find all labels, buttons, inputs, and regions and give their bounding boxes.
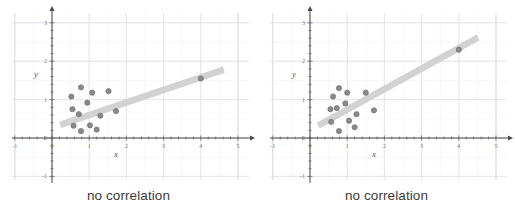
x-tick-label: 3: [162, 143, 165, 149]
y-tick-label: 3: [302, 20, 305, 26]
data-point: [352, 125, 357, 130]
major-grid: [12, 13, 249, 180]
trend-line: [318, 37, 478, 125]
data-point: [113, 109, 118, 114]
x-tick-label: -1: [12, 143, 17, 149]
data-point: [69, 94, 74, 99]
figure-container: -10123453210-1xy no correlation -1012345…: [0, 0, 515, 220]
axes: [270, 6, 513, 183]
data-point: [330, 94, 335, 99]
y-tick-label: 0: [44, 135, 47, 141]
data-point: [328, 107, 333, 112]
x-tick-label: 1: [346, 143, 349, 149]
data-point: [336, 85, 341, 90]
scatter-plot-left: -10123453210-1xy: [0, 0, 257, 186]
y-tick-label: 2: [44, 58, 47, 64]
y-tick-label: -1: [300, 173, 305, 179]
minor-grid: [12, 13, 249, 180]
caption-left: no correlation: [0, 188, 257, 203]
data-point: [456, 47, 461, 52]
data-point: [98, 113, 103, 118]
x-tick-label: 2: [383, 143, 386, 149]
scatter-panel-left: -10123453210-1xy no correlation: [0, 0, 257, 220]
y-tick-label: -1: [42, 173, 47, 179]
data-point: [354, 112, 359, 117]
x-tick-label: 0: [309, 143, 312, 149]
x-tick-label: 4: [199, 143, 202, 149]
data-point: [94, 127, 99, 132]
x-tick-label: 5: [495, 143, 498, 149]
x-tick-label: 4: [457, 143, 460, 149]
y-axis-label: y: [291, 69, 296, 79]
data-point: [85, 100, 90, 105]
x-tick-label: 5: [237, 143, 240, 149]
data-point: [70, 107, 75, 112]
data-point: [90, 90, 95, 95]
x-tick-label: 0: [51, 143, 54, 149]
data-point: [78, 85, 83, 90]
y-axis-arrow: [307, 6, 312, 11]
data-point: [343, 101, 348, 106]
y-tick-label: 0: [302, 135, 305, 141]
y-tick-label: 1: [302, 97, 305, 103]
data-point: [345, 90, 350, 95]
x-tick-label: 3: [420, 143, 423, 149]
y-axis-arrow: [49, 6, 54, 11]
data-point: [329, 119, 334, 124]
y-tick-label: 1: [44, 97, 47, 103]
data-point: [78, 128, 83, 133]
x-axis-arrow: [250, 135, 255, 140]
data-point: [106, 89, 111, 94]
y-tick-label: 2: [302, 58, 305, 64]
x-tick-label: -1: [270, 143, 275, 149]
x-axis-arrow: [508, 135, 513, 140]
x-tick-label: 1: [88, 143, 91, 149]
x-axis-label: x: [113, 149, 118, 159]
x-axis-label: x: [371, 149, 376, 159]
data-point: [371, 108, 376, 113]
y-axis-label: y: [33, 69, 38, 79]
data-point: [198, 76, 203, 81]
data-point: [87, 123, 92, 128]
data-point: [71, 123, 76, 128]
caption-right: no correlation: [258, 188, 515, 203]
x-tick-label: 2: [125, 143, 128, 149]
data-point: [346, 118, 351, 123]
scatter-panel-right: -10123453210-1xy no correlation: [258, 0, 515, 220]
axes: [12, 6, 255, 183]
scatter-plot-right: -10123453210-1xy: [258, 0, 515, 186]
data-point: [336, 128, 341, 133]
y-tick-label: 3: [44, 20, 47, 26]
data-point: [363, 90, 368, 95]
data-point: [76, 112, 81, 117]
data-point: [334, 105, 339, 110]
